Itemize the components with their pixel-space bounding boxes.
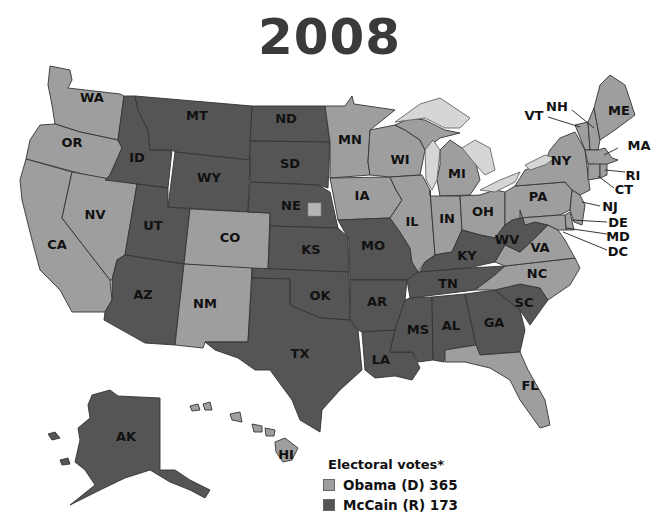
- label-NC: NC: [527, 266, 547, 281]
- label-SD: SD: [280, 156, 300, 171]
- label-CA: CA: [47, 237, 67, 252]
- label-ND: ND: [275, 111, 297, 126]
- label-NE: NE: [281, 198, 301, 213]
- state-CT: [588, 164, 600, 180]
- state-HI-i3: [230, 412, 242, 422]
- dem-swatch: [323, 479, 335, 491]
- label-MA: MA: [628, 138, 651, 153]
- legend: Electoral votes* Obama (D) 365 McCain (R…: [323, 457, 458, 517]
- state-RI: [600, 164, 607, 178]
- label-KY: KY: [457, 248, 477, 263]
- nebraska-district-marker: [308, 203, 321, 216]
- label-MN: MN: [338, 132, 362, 147]
- label-IL: IL: [405, 214, 418, 229]
- label-MO: MO: [361, 238, 385, 253]
- label-NY: NY: [551, 153, 572, 168]
- label-FL: FL: [521, 378, 538, 393]
- label-LA: LA: [372, 352, 390, 367]
- legend-item-obama: Obama (D) 365: [323, 477, 458, 493]
- label-ME: ME: [608, 103, 630, 118]
- label-WI: WI: [390, 152, 409, 167]
- label-IN: IN: [439, 211, 455, 226]
- label-NM: NM: [193, 296, 217, 311]
- label-KS: KS: [301, 242, 320, 257]
- label-AL: AL: [442, 318, 460, 333]
- label-MI: MI: [448, 166, 466, 181]
- label-UT: UT: [143, 218, 163, 233]
- label-NH: NH: [546, 99, 568, 114]
- state-HI-i5: [265, 428, 275, 436]
- label-AZ: AZ: [133, 287, 153, 302]
- legend-item-mccain: McCain (R) 173: [323, 497, 458, 513]
- label-GA: GA: [484, 315, 505, 330]
- label-AK: AK: [116, 429, 137, 444]
- state-AK-island2: [60, 458, 70, 465]
- label-AR: AR: [367, 294, 387, 309]
- us-electoral-map: WA OR CA NV ID MT WY UT AZ CO NM ND SD N…: [0, 0, 659, 532]
- label-PA: PA: [529, 189, 547, 204]
- label-MS: MS: [407, 322, 429, 337]
- label-NJ: NJ: [602, 199, 618, 214]
- label-VA: VA: [530, 240, 549, 255]
- label-MD: MD: [606, 229, 630, 244]
- label-TX: TX: [291, 346, 310, 361]
- label-IA: IA: [355, 188, 370, 203]
- label-CT: CT: [615, 182, 634, 197]
- label-OK: OK: [309, 288, 331, 303]
- rep-swatch: [323, 499, 335, 511]
- state-MT: [135, 96, 252, 160]
- state-HI-i2: [203, 402, 212, 410]
- label-TN: TN: [438, 276, 458, 291]
- label-SC: SC: [515, 295, 534, 310]
- label-HI: HI: [278, 447, 294, 462]
- label-WY: WY: [197, 170, 221, 185]
- legend-label-obama: Obama (D) 365: [343, 477, 458, 493]
- label-RI: RI: [626, 168, 641, 183]
- label-CO: CO: [220, 230, 241, 245]
- state-HI-i4: [252, 424, 262, 432]
- label-OR: OR: [61, 135, 82, 150]
- state-AK-island1: [48, 432, 60, 440]
- label-NV: NV: [85, 207, 106, 222]
- label-WV: WV: [495, 232, 519, 247]
- legend-title: Electoral votes*: [328, 457, 458, 472]
- label-MT: MT: [186, 108, 208, 123]
- legend-label-mccain: McCain (R) 173: [343, 497, 458, 513]
- label-OH: OH: [472, 204, 494, 219]
- label-ID: ID: [129, 150, 145, 165]
- label-DE: DE: [608, 215, 628, 230]
- state-HI-i1: [190, 404, 200, 411]
- label-DC: DC: [608, 244, 628, 259]
- label-VT: VT: [525, 108, 544, 123]
- state-AK: [70, 390, 210, 505]
- label-WA: WA: [80, 90, 104, 105]
